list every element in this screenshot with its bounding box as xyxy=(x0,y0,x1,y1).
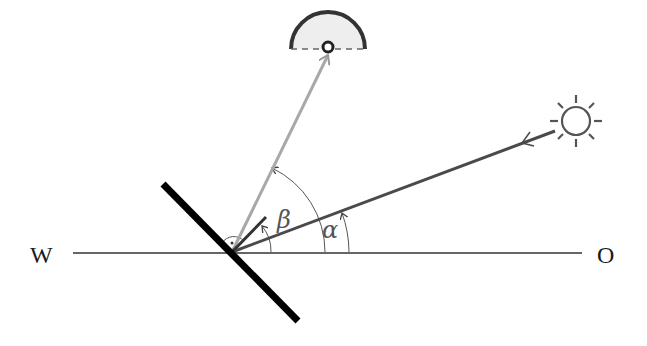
label-east: O xyxy=(597,242,614,268)
label-beta: β xyxy=(276,206,291,234)
diagram-canvas: W O α β xyxy=(0,0,647,346)
label-west: W xyxy=(30,242,53,268)
observer-dome-icon xyxy=(291,12,365,52)
reflection-diagram: W O α β xyxy=(0,0,647,346)
label-alpha: α xyxy=(322,216,338,244)
right-angle-dot xyxy=(231,242,234,245)
alpha-arc xyxy=(342,213,349,252)
sun-icon xyxy=(550,95,602,147)
